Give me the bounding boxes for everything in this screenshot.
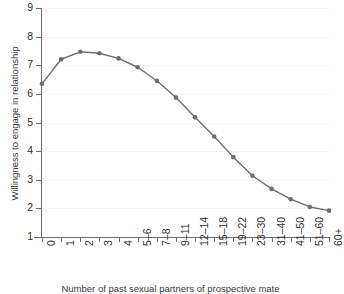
y-axis-tick xyxy=(36,37,42,38)
y-axis-tick xyxy=(36,151,42,152)
plot-area xyxy=(42,8,329,237)
y-axis-tick-label: 1 xyxy=(5,231,33,242)
gridline xyxy=(42,37,329,38)
x-axis-tick xyxy=(252,237,253,242)
x-axis-tick xyxy=(176,237,177,242)
x-axis-tick xyxy=(138,237,139,242)
x-axis-tick xyxy=(233,237,234,242)
x-axis-tick xyxy=(291,237,292,242)
x-axis-tick-label: 0 xyxy=(46,240,57,246)
y-axis-tick-label: 7 xyxy=(5,59,33,70)
x-axis-tick-label: 51–60 xyxy=(314,217,325,246)
x-axis-tick xyxy=(42,237,43,242)
x-axis-tick-label: 2 xyxy=(84,240,95,246)
x-axis-tick xyxy=(119,237,120,242)
x-axis-tick xyxy=(272,237,273,242)
x-axis-tick-label: 12–14 xyxy=(199,217,210,246)
x-axis-tick-label: 3 xyxy=(103,240,114,246)
x-axis-tick xyxy=(99,237,100,242)
y-axis-tick-label: 5 xyxy=(5,117,33,128)
x-axis-tick-label: 31–40 xyxy=(276,217,287,246)
x-axis-tick xyxy=(214,237,215,242)
x-axis-tick-label: 19–22 xyxy=(237,217,248,246)
x-axis-tick-label: 15–18 xyxy=(218,217,229,246)
gridline xyxy=(42,65,329,66)
gridline xyxy=(42,94,329,95)
y-axis-tick xyxy=(36,208,42,209)
x-axis-tick-label: 4 xyxy=(123,240,134,246)
x-axis-tick-label: 5–6 xyxy=(142,228,153,246)
gridline xyxy=(42,151,329,152)
y-axis-tick-label: 3 xyxy=(5,174,33,185)
y-axis-tick xyxy=(36,94,42,95)
x-axis-tick xyxy=(310,237,311,242)
gridline xyxy=(42,8,329,9)
x-axis-tick-label: 7–8 xyxy=(161,228,172,246)
x-axis-tick-label: 60+ xyxy=(333,228,344,246)
x-axis-tick-label: 23–30 xyxy=(256,217,267,246)
gridline xyxy=(42,208,329,209)
x-axis-tick xyxy=(329,237,330,242)
y-axis-tick-label: 2 xyxy=(5,202,33,213)
x-axis-tick-label: 1 xyxy=(65,240,76,246)
y-axis-tick-label: 4 xyxy=(5,145,33,156)
x-axis-tick xyxy=(80,237,81,242)
y-axis-tick-label: 8 xyxy=(5,31,33,42)
x-axis-tick xyxy=(195,237,196,242)
x-axis-tick-label: 9–11 xyxy=(180,223,191,246)
y-axis-tick xyxy=(36,65,42,66)
y-axis-tick-label: 9 xyxy=(5,2,33,13)
y-axis-tick xyxy=(36,8,42,9)
x-axis-title: Number of past sexual partners of prospe… xyxy=(0,283,341,294)
y-axis-tick xyxy=(36,180,42,181)
x-axis-tick xyxy=(61,237,62,242)
x-axis-tick xyxy=(157,237,158,242)
y-axis-tick xyxy=(36,123,42,124)
gridline xyxy=(42,180,329,181)
x-axis-tick-label: 41–50 xyxy=(295,217,306,246)
gridline xyxy=(42,123,329,124)
y-axis-tick-label: 6 xyxy=(5,88,33,99)
